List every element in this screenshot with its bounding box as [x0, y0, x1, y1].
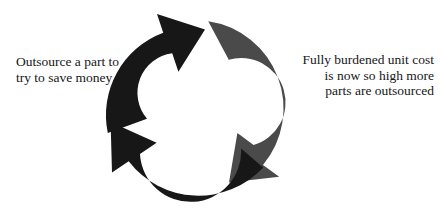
unit-cost-label: Fully burdened unit cost is now so high … — [302, 52, 434, 99]
cycle-arrow-lower — [111, 122, 264, 202]
outsource-part-label: Outsource a part to try to save money — [16, 54, 119, 85]
cycle-arrow-upper-left — [106, 14, 205, 133]
unit-cost-label-line-2: is now so high more — [302, 68, 434, 84]
cycle-diagram-graphic — [0, 0, 441, 212]
cycle-diagram-figure: Outsource a part to try to save money Fu… — [0, 0, 441, 212]
outsource-part-label-line-1: Outsource a part to — [16, 54, 119, 70]
unit-cost-label-line-3: parts are outsourced — [302, 83, 434, 99]
unit-cost-label-line-1: Fully burdened unit cost — [302, 52, 434, 68]
outsource-part-label-line-2: try to save money — [16, 70, 119, 86]
